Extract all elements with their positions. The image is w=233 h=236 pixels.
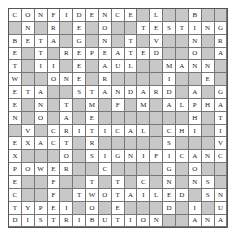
letter-cell[interactable]: R <box>48 22 61 35</box>
letter-cell[interactable]: R <box>60 215 73 228</box>
letter-cell[interactable]: Y <box>22 202 35 215</box>
letter-cell[interactable]: A <box>215 48 228 61</box>
letter-cell[interactable]: E <box>150 22 163 35</box>
letter-cell[interactable]: F <box>150 150 163 163</box>
letter-cell[interactable]: R <box>60 48 73 61</box>
letter-cell[interactable]: U <box>215 202 228 215</box>
letter-cell[interactable]: E <box>9 137 22 150</box>
letter-cell[interactable]: I <box>163 73 176 86</box>
letter-cell[interactable]: N <box>35 9 48 22</box>
letter-cell[interactable]: I <box>215 125 228 138</box>
letter-cell[interactable]: E <box>137 48 150 61</box>
letter-cell[interactable]: H <box>176 125 189 138</box>
letter-cell[interactable]: C <box>176 150 189 163</box>
letter-cell[interactable]: A <box>137 86 150 99</box>
letter-cell[interactable]: N <box>112 86 125 99</box>
letter-cell[interactable]: V <box>150 35 163 48</box>
letter-cell[interactable]: T <box>9 60 22 73</box>
letter-cell[interactable]: E <box>125 9 138 22</box>
letter-cell[interactable]: B <box>9 35 22 48</box>
letter-cell[interactable]: E <box>99 48 112 61</box>
letter-cell[interactable]: L <box>176 99 189 112</box>
letter-cell[interactable]: O <box>86 202 99 215</box>
letter-cell[interactable]: T <box>176 22 189 35</box>
letter-cell[interactable]: L <box>125 60 138 73</box>
letter-cell[interactable]: A <box>163 99 176 112</box>
letter-cell[interactable]: T <box>60 137 73 150</box>
letter-cell[interactable]: P <box>35 202 48 215</box>
letter-cell[interactable]: A <box>35 86 48 99</box>
letter-cell[interactable]: A <box>215 215 228 228</box>
letter-cell[interactable]: N <box>202 60 215 73</box>
letter-cell[interactable]: U <box>112 60 125 73</box>
letter-cell[interactable]: T <box>112 215 125 228</box>
letter-cell[interactable]: T <box>22 86 35 99</box>
letter-cell[interactable]: L <box>150 9 163 22</box>
letter-cell[interactable]: N <box>60 73 73 86</box>
letter-cell[interactable]: C <box>215 150 228 163</box>
letter-cell[interactable]: E <box>22 35 35 48</box>
letter-cell[interactable]: F <box>48 176 61 189</box>
letter-cell[interactable]: T <box>86 176 99 189</box>
letter-cell[interactable]: E <box>202 73 215 86</box>
letter-cell[interactable]: T <box>112 176 125 189</box>
letter-cell[interactable]: E <box>48 163 61 176</box>
letter-cell[interactable]: C <box>9 9 22 22</box>
letter-cell[interactable]: T <box>60 99 73 112</box>
letter-cell[interactable]: O <box>137 215 150 228</box>
letter-cell[interactable]: I <box>60 202 73 215</box>
letter-cell[interactable]: C <box>163 125 176 138</box>
letter-cell[interactable]: X <box>22 137 35 150</box>
letter-cell[interactable]: T <box>112 189 125 202</box>
letter-cell[interactable]: N <box>189 60 202 73</box>
letter-cell[interactable]: R <box>60 163 73 176</box>
letter-cell[interactable]: B <box>189 9 202 22</box>
letter-cell[interactable]: C <box>9 189 22 202</box>
letter-cell[interactable]: F <box>48 9 61 22</box>
letter-cell[interactable]: H <box>202 99 215 112</box>
letter-cell[interactable]: A <box>48 35 61 48</box>
letter-cell[interactable]: E <box>86 112 99 125</box>
letter-cell[interactable]: M <box>137 99 150 112</box>
letter-cell[interactable]: S <box>35 215 48 228</box>
letter-cell[interactable]: E <box>48 202 61 215</box>
letter-cell[interactable]: T <box>125 48 138 61</box>
letter-cell[interactable]: E <box>163 189 176 202</box>
letter-cell[interactable]: I <box>137 189 150 202</box>
letter-cell[interactable]: I <box>189 22 202 35</box>
letter-cell[interactable]: W <box>9 73 22 86</box>
letter-cell[interactable]: I <box>35 60 48 73</box>
letter-cell[interactable]: N <box>9 112 22 125</box>
letter-cell[interactable]: D <box>176 189 189 202</box>
letter-cell[interactable]: U <box>99 215 112 228</box>
letter-cell[interactable]: A <box>189 215 202 228</box>
letter-cell[interactable]: T <box>48 215 61 228</box>
letter-cell[interactable]: L <box>137 125 150 138</box>
letter-cell[interactable]: G <box>215 86 228 99</box>
letter-cell[interactable]: I <box>189 202 202 215</box>
letter-cell[interactable]: C <box>112 125 125 138</box>
letter-cell[interactable]: S <box>86 150 99 163</box>
letter-cell[interactable]: G <box>112 150 125 163</box>
letter-cell[interactable]: O <box>22 9 35 22</box>
letter-cell[interactable]: T <box>73 189 86 202</box>
letter-cell[interactable]: D <box>9 215 22 228</box>
letter-cell[interactable]: R <box>215 35 228 48</box>
letter-cell[interactable]: D <box>163 86 176 99</box>
letter-cell[interactable]: A <box>125 125 138 138</box>
letter-cell[interactable]: N <box>125 150 138 163</box>
letter-cell[interactable]: G <box>73 35 86 48</box>
letter-cell[interactable]: B <box>86 215 99 228</box>
letter-cell[interactable]: C <box>99 163 112 176</box>
letter-cell[interactable]: F <box>48 189 61 202</box>
letter-cell[interactable]: R <box>150 86 163 99</box>
letter-cell[interactable]: D <box>125 86 138 99</box>
letter-cell[interactable]: E <box>9 99 22 112</box>
letter-cell[interactable]: T <box>215 112 228 125</box>
letter-cell[interactable]: N <box>163 176 176 189</box>
letter-cell[interactable]: T <box>9 202 22 215</box>
letter-cell[interactable]: A <box>112 48 125 61</box>
letter-cell[interactable]: O <box>22 163 35 176</box>
letter-cell[interactable]: R <box>99 73 112 86</box>
letter-cell[interactable]: A <box>176 60 189 73</box>
